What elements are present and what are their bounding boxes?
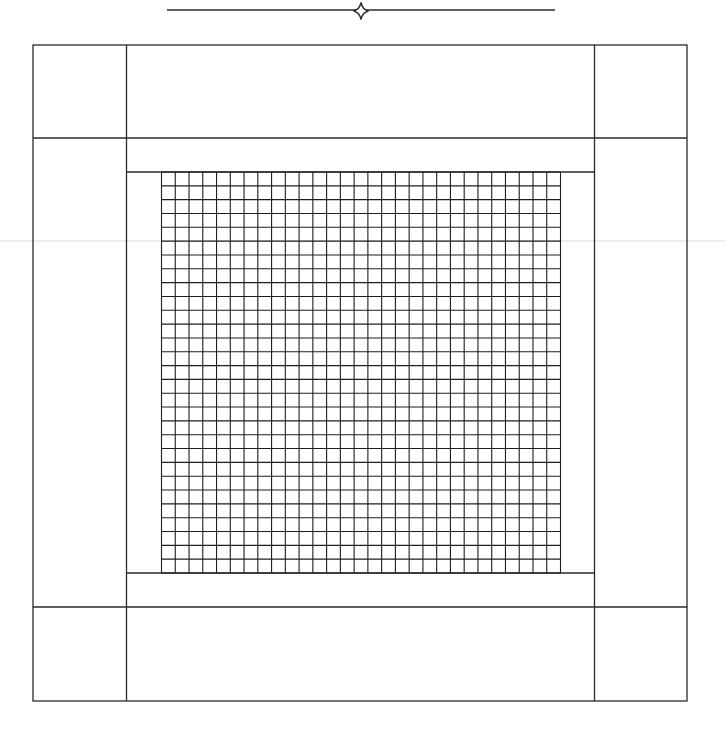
quilt-block-diagram [0, 0, 725, 733]
four-pointed-star-icon [354, 3, 369, 20]
center-inner-box [127, 172, 595, 573]
outer-frame [33, 45, 687, 701]
header-ornament [167, 3, 555, 20]
outer-border [33, 45, 687, 701]
center-grid [162, 172, 561, 573]
